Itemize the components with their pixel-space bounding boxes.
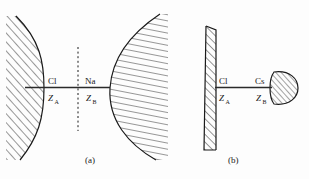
panel-a-left-coordinate-subscript: A [55, 99, 60, 105]
panel-b-right-species-label: Cs [255, 76, 265, 86]
panel-a-right-coordinate-label: Z [86, 93, 92, 103]
panel-b-right-coordinate-subscript: B [263, 99, 267, 105]
panel-a-left-coordinate-label: Z [48, 93, 54, 103]
panel-b-right-coordinate-label: Z [256, 93, 262, 103]
panel-b-left-coordinate-label: Z [219, 93, 225, 103]
panel-a-right-coordinate-subscript: B [93, 99, 97, 105]
panel-b-left-coordinate-subscript: A [226, 99, 231, 105]
panel-b-left-body [200, 22, 224, 156]
panel-a-caption: (a) [85, 155, 95, 165]
diagram-canvas: Cl Z A Na Z B (a) Cl Z A Cs Z B (b) [0, 0, 309, 179]
panel-a-left-species-label: Cl [48, 76, 57, 86]
panel-a-right-body [100, 8, 180, 168]
panel-b-left-species-label: Cl [219, 76, 228, 86]
panel-b-caption: (b) [228, 155, 239, 165]
figure-container: Cl Z A Na Z B (a) Cl Z A Cs Z B (b) [0, 0, 309, 179]
panel-a-right-species-label: Na [85, 76, 96, 86]
